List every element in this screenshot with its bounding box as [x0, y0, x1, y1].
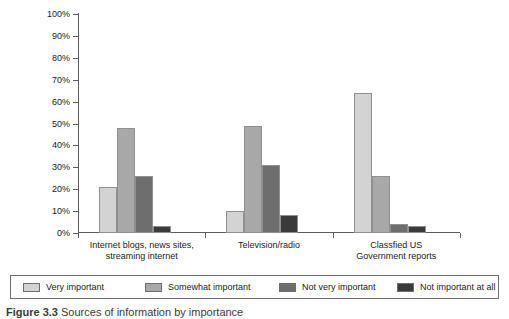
x-axis-tick [78, 233, 79, 238]
y-axis-tick-label: 70% [28, 76, 70, 85]
y-axis-tick-label: 100% [28, 10, 70, 19]
y-axis-tick-label: 40% [28, 141, 70, 150]
x-axis-tick [460, 233, 461, 238]
x-axis-category-label: Classfied USGovernment reports [313, 240, 480, 262]
legend-label: Not very important [302, 283, 376, 292]
y-axis-tick-label: 90% [28, 32, 70, 41]
y-axis-tick-label: 60% [28, 98, 70, 107]
y-axis-tick-label: 80% [28, 54, 70, 63]
bar [244, 126, 262, 233]
legend-item[interactable]: Not very important [279, 283, 376, 292]
y-axis-tick-label: 50% [28, 120, 70, 129]
bar [408, 226, 426, 233]
bar [153, 226, 171, 233]
bar [117, 128, 135, 233]
legend-item[interactable]: Not important at all [397, 283, 496, 292]
bar [390, 224, 408, 233]
bar [354, 93, 372, 233]
bar [99, 187, 117, 233]
bar [226, 211, 244, 233]
legend-label: Somewhat important [168, 283, 251, 292]
bar [262, 165, 280, 233]
legend-label: Not important at all [420, 283, 496, 292]
bar [135, 176, 153, 233]
x-axis-tick [333, 233, 334, 238]
chart-legend: Very importantSomewhat importantNot very… [10, 275, 499, 299]
legend-item[interactable]: Somewhat important [145, 283, 251, 292]
bar-chart-figure: 0%10%20%30%40%50%60%70%80%90%100% Intern… [0, 0, 509, 319]
x-axis-category-label-line: Government reports [313, 251, 480, 262]
y-axis-tick-label: 30% [28, 163, 70, 172]
y-axis-tick-label: 0% [28, 229, 70, 238]
legend-swatch [279, 283, 296, 292]
legend-label: Very important [46, 283, 104, 292]
bar [372, 176, 390, 233]
figure-caption: Figure 3.3 Sources of information by imp… [6, 305, 506, 319]
y-axis-tick-label: 20% [28, 185, 70, 194]
legend-swatch [145, 283, 162, 292]
legend-swatch [397, 283, 414, 292]
legend-swatch [23, 283, 40, 292]
plot-area [78, 14, 460, 233]
y-axis-tick-label: 10% [28, 207, 70, 216]
figure-caption-text: Sources of information by importance [61, 306, 243, 318]
legend-item[interactable]: Very important [23, 283, 104, 292]
bar [280, 215, 298, 233]
x-axis-tick [205, 233, 206, 238]
x-axis-category-label-line: streaming internet [58, 251, 225, 262]
figure-caption-label: Figure 3.3 [6, 306, 58, 318]
x-axis-category-label-line: Classfied US [313, 240, 480, 251]
